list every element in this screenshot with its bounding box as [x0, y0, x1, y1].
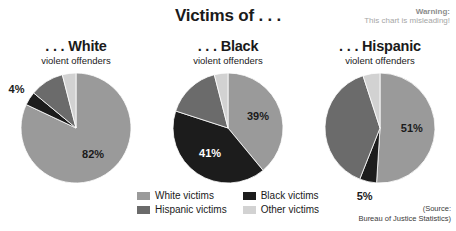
source-line-1: (Source:	[358, 204, 451, 213]
panel-header-black: . . . Black violent offenders	[152, 38, 304, 66]
chart-container: Victims of . . . Warning: This chart is …	[0, 0, 456, 231]
legend-swatch-black-victims	[243, 192, 256, 200]
source-line-2: Bureau of Justice Statistics)	[358, 214, 451, 223]
slice-label-white-82: 82%	[82, 148, 104, 160]
pie-cell-black: 39% 41%	[152, 72, 304, 184]
warning-label: Warning:	[364, 7, 450, 16]
warning-message: This chart is misleading!	[364, 16, 450, 25]
legend-item-hispanic-victims: Hispanic victims	[137, 204, 227, 215]
legend-swatch-white-victims	[137, 192, 150, 200]
slice-label-white-4: 4%	[9, 83, 25, 95]
pie-white-wrapper	[20, 72, 132, 184]
legend-label-white-victims: White victims	[155, 190, 214, 201]
pie-cell-hispanic: 51% 5%	[304, 72, 456, 184]
warning-note: Warning: This chart is misleading!	[364, 7, 450, 25]
pie-cell-white: 82% 4%	[0, 72, 152, 184]
legend-item-other-victims: Other victims	[243, 204, 319, 215]
panel-title-black: . . . Black	[152, 38, 304, 54]
legend-swatch-hispanic-victims	[137, 206, 150, 214]
slice-label-black-39: 39%	[247, 110, 269, 122]
pie-chart-black	[172, 72, 284, 184]
legend-label-black-victims: Black victims	[261, 190, 319, 201]
legend-grid: White victims Black victims Hispanic vic…	[137, 190, 319, 215]
pie-chart-white	[20, 72, 132, 184]
legend-swatch-other-victims	[243, 206, 256, 214]
panel-subtitle-black: violent offenders	[152, 55, 304, 66]
legend-item-black-victims: Black victims	[243, 190, 319, 201]
source-attribution: (Source: Bureau of Justice Statistics)	[358, 204, 451, 223]
panel-subtitle-white: violent offenders	[0, 55, 152, 66]
legend-label-hispanic-victims: Hispanic victims	[155, 204, 227, 215]
panel-header-hispanic: . . . Hispanic violent offenders	[304, 38, 456, 66]
panel-title-hispanic: . . . Hispanic	[304, 38, 456, 54]
slice-label-black-41: 41%	[199, 147, 221, 159]
legend-item-white-victims: White victims	[137, 190, 227, 201]
slice-label-hispanic-51: 51%	[401, 122, 423, 134]
panel-subtitle-hispanic: violent offenders	[304, 55, 456, 66]
panel-header-row: . . . White violent offenders . . . Blac…	[0, 38, 456, 66]
legend-label-other-victims: Other victims	[261, 204, 319, 215]
pie-charts-row: 82% 4% 39% 41% 51% 5%	[0, 72, 456, 184]
panel-header-white: . . . White violent offenders	[0, 38, 152, 66]
pie-black-wrapper	[172, 72, 284, 184]
panel-title-white: . . . White	[0, 38, 152, 54]
